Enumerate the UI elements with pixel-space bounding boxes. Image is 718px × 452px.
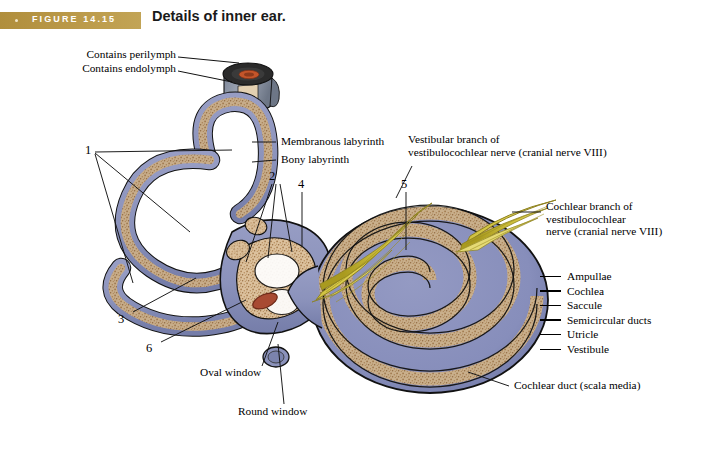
- label-membranous-labyrinth: Membranous labyrinth: [281, 135, 384, 148]
- answer-key-list: Ampullae Cochlea Saccule Semicircular du…: [540, 270, 651, 358]
- answer-key-label: Cochlea: [567, 285, 604, 297]
- answer-blank-line[interactable]: [540, 276, 561, 277]
- answer-blank-line[interactable]: [540, 290, 561, 291]
- answer-key-item-utricle: Utricle: [540, 328, 651, 343]
- label-cochlear-branch-line1: Cochlear branch of: [546, 200, 662, 213]
- answer-key-label: Utricle: [567, 328, 598, 340]
- answer-blank-line[interactable]: [540, 305, 561, 306]
- answer-blank-line[interactable]: [540, 334, 561, 335]
- label-cochlear-branch-line3: nerve (cranial nerve VIII): [546, 225, 662, 238]
- label-cochlear-branch: Cochlear branch of vestibulocochlear ner…: [546, 200, 662, 238]
- number-callout-4: 4: [298, 177, 304, 192]
- label-cochlear-duct: Cochlear duct (scala media): [514, 379, 640, 392]
- answer-key-label: Saccule: [567, 299, 602, 311]
- label-oval-window: Oval window: [200, 366, 261, 379]
- label-bony-labyrinth: Bony labyrinth: [281, 153, 349, 166]
- number-callout-6: 6: [146, 341, 152, 356]
- label-round-window: Round window: [238, 405, 307, 418]
- label-contains-perilymph: Contains perilymph: [0, 48, 176, 61]
- number-callout-1: 1: [85, 143, 91, 158]
- answer-key-item-saccule: Saccule: [540, 299, 651, 314]
- answer-blank-line[interactable]: [540, 349, 561, 350]
- answer-key-item-vestibule: Vestibule: [540, 343, 651, 358]
- label-vestibular-branch-line2: vestibulocochlear nerve (cranial nerve V…: [408, 146, 607, 159]
- label-cochlear-branch-line2: vestibulocochlear: [546, 213, 662, 226]
- label-vestibular-branch: Vestibular branch of vestibulocochlear n…: [408, 133, 607, 158]
- answer-key-label: Vestibule: [567, 343, 609, 355]
- number-callout-3: 3: [118, 312, 124, 327]
- number-callout-5: 5: [401, 177, 407, 192]
- answer-key-item-cochlea: Cochlea: [540, 285, 651, 300]
- label-contains-endolymph: Contains endolymph: [0, 62, 176, 75]
- answer-key-label: Semicircular ducts: [567, 314, 651, 326]
- label-vestibular-branch-line1: Vestibular branch of: [408, 133, 607, 146]
- cochlea-spiral: [288, 205, 548, 393]
- number-callout-2: 2: [269, 169, 275, 184]
- answer-key-label: Ampullae: [567, 270, 612, 282]
- answer-key-item-semicircular-ducts: Semicircular ducts: [540, 314, 651, 329]
- answer-blank-line[interactable]: [540, 319, 561, 320]
- answer-key-item-ampullae: Ampullae: [540, 270, 651, 285]
- figure-canvas: FIGURE 14.15 Details of inner ear.: [0, 0, 718, 452]
